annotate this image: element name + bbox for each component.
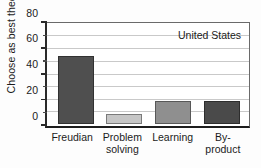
y-tick-label-20: 20 <box>26 85 38 96</box>
bar-slot-freudian <box>51 24 100 124</box>
x-label-freudian: Freudian <box>47 131 97 155</box>
x-label-problem-solving-line1: Problem <box>103 131 142 143</box>
bar-problem-solving[interactable] <box>106 114 142 124</box>
bar-slot-learning <box>149 24 198 124</box>
plot-area: 0 20 40 60 80 United States <box>45 22 250 128</box>
y-tick-minor-30 <box>43 86 47 87</box>
bar-group <box>49 24 248 124</box>
x-label-by-product: By- product <box>198 131 248 155</box>
bar-chart-figure: Choose as best theory (%) 0 20 40 60 80 … <box>0 0 261 168</box>
y-tick-80 <box>41 21 47 23</box>
y-tick-minor-50 <box>43 60 47 61</box>
y-tick-minor-10 <box>43 112 47 113</box>
x-label-problem-solving: Problem solving <box>97 131 147 155</box>
y-tick-label-0: 0 <box>32 110 38 121</box>
y-axis-title-text: Choose as best theory (%) <box>5 0 17 93</box>
x-label-learning: Learning <box>148 131 198 155</box>
bar-freudian[interactable] <box>58 56 94 123</box>
y-tick-40 <box>41 73 47 75</box>
x-label-by-product-line2: product <box>198 143 248 155</box>
x-label-by-product-line1: By- <box>215 131 231 143</box>
y-tick-label-40: 40 <box>26 59 38 70</box>
y-tick-60 <box>41 47 47 49</box>
x-label-problem-solving-line2: solving <box>97 143 147 155</box>
y-axis-title: Choose as best theory (%) <box>3 0 19 85</box>
y-tick-label-80: 80 <box>26 7 38 18</box>
x-label-freudian-line1: Freudian <box>51 131 92 143</box>
bar-learning[interactable] <box>155 101 191 123</box>
x-label-learning-line1: Learning <box>152 131 193 143</box>
y-tick-minor-70 <box>43 35 47 36</box>
y-tick-label-60: 60 <box>26 33 38 44</box>
bar-slot-problem-solving <box>100 24 149 124</box>
y-tick-0 <box>41 124 47 126</box>
x-axis-labels: Freudian Problem solving Learning By- pr… <box>45 131 250 155</box>
bar-by-product[interactable] <box>204 101 240 123</box>
bar-slot-by-product <box>197 24 246 124</box>
y-tick-20 <box>41 99 47 101</box>
